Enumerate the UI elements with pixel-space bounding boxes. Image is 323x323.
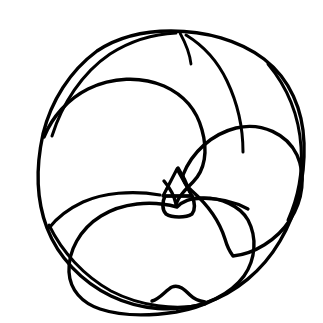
figure-background (0, 0, 323, 323)
figure-root (0, 0, 323, 323)
foraminifera-line-drawing (0, 0, 323, 323)
